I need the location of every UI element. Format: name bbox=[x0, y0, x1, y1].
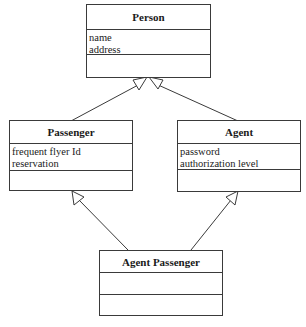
class-operations bbox=[87, 55, 210, 77]
generalization-arrowhead-icon bbox=[226, 191, 238, 205]
agent-to-person-link bbox=[156, 84, 238, 121]
class-operations bbox=[10, 171, 132, 190]
attribute: reservation bbox=[12, 158, 130, 170]
class-attributes: password authorization level bbox=[178, 144, 300, 170]
class-attributes bbox=[100, 273, 222, 295]
class-name: Agent bbox=[178, 121, 300, 144]
generalization-arrowhead-icon bbox=[133, 77, 147, 90]
class-attributes: frequent flyer Id reservation bbox=[10, 144, 132, 171]
passenger-to-person-link bbox=[71, 84, 140, 121]
class-operations bbox=[178, 170, 300, 191]
class-passenger[interactable]: Passenger frequent flyer Id reservation bbox=[9, 120, 133, 191]
class-name: Passenger bbox=[10, 121, 132, 144]
class-agent-passenger[interactable]: Agent Passenger bbox=[99, 250, 223, 316]
class-operations bbox=[100, 295, 222, 315]
attribute: authorization level bbox=[180, 158, 298, 170]
attribute: address bbox=[89, 44, 208, 56]
attribute: name bbox=[89, 32, 208, 44]
class-agent[interactable]: Agent password authorization level bbox=[177, 120, 301, 192]
attribute: password bbox=[180, 146, 298, 158]
agentpassenger-to-passenger-link bbox=[79, 200, 128, 250]
class-attributes: name address bbox=[87, 30, 210, 55]
agentpassenger-to-agent-link bbox=[191, 200, 231, 250]
attribute: frequent flyer Id bbox=[12, 146, 130, 158]
class-name: Agent Passenger bbox=[100, 251, 222, 273]
class-person[interactable]: Person name address bbox=[86, 4, 211, 78]
generalization-arrowhead-icon bbox=[149, 77, 163, 89]
class-name: Person bbox=[87, 5, 210, 30]
